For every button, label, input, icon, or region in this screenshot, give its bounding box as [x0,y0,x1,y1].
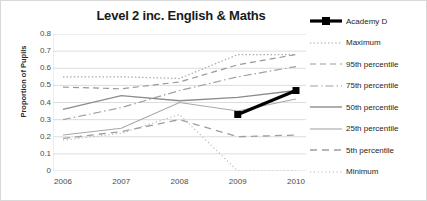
y-axis-tick-label: 0.8 [23,30,51,38]
plot-area [53,34,306,171]
chart-legend: Academy DMaximum95th percentile75th perc… [309,11,426,196]
x-axis-tick-label: 2009 [215,177,261,186]
y-axis-tick-label: 0.5 [23,81,51,89]
legend-item[interactable]: 50th percentile [309,97,426,117]
series-marker [293,87,300,94]
y-axis-tick-label: 0.6 [23,64,51,72]
legend-swatch-icon [309,122,343,136]
legend-label: Maximum [346,38,381,47]
y-axis-tick-labels: 00.10.20.30.40.50.60.70.8 [21,1,51,201]
legend-label: Minimum [346,167,378,176]
legend-swatch-icon [309,14,343,28]
chart-plot-svg [53,34,306,171]
x-axis-tick-label: 2008 [157,177,203,186]
y-axis-tick-label: 0.1 [23,150,51,158]
legend-label: 5th percentile [346,146,394,155]
legend-label: 95th percentile [346,60,398,69]
series-line [63,67,296,120]
legend-swatch-icon [309,79,343,93]
series-line [63,55,296,89]
legend-swatch-icon [309,100,343,114]
legend-label: 25th percentile [346,124,398,133]
legend-swatch-icon [309,36,343,50]
y-axis-tick-label: 0.2 [23,133,51,141]
legend-item[interactable]: Minimum [309,162,426,182]
legend-label: Academy D [346,17,387,26]
legend-label: 75th percentile [346,81,398,90]
y-axis-tick-label: 0.7 [23,47,51,55]
series-line [63,114,296,171]
chart-title: Level 2 inc. English & Maths [56,8,306,23]
legend-item[interactable]: Academy D [309,11,426,31]
legend-swatch-icon [309,57,343,71]
legend-item[interactable]: 25th percentile [309,119,426,139]
series-marker [234,111,241,118]
y-axis-tick-label: 0.4 [23,99,51,107]
chart-container: Level 2 inc. English & Maths Proportion … [0,0,427,201]
legend-item[interactable]: Maximum [309,33,426,53]
y-axis-tick-label: 0 [23,167,51,175]
legend-swatch-icon [309,165,343,179]
x-axis-tick-label: 2006 [40,177,86,186]
legend-swatch-icon [309,143,343,157]
legend-item[interactable]: 5th percentile [309,140,426,160]
legend-label: 50th percentile [346,103,398,112]
legend-item[interactable]: 95th percentile [309,54,426,74]
legend-item[interactable]: 75th percentile [309,76,426,96]
x-axis-tick-label: 2007 [98,177,144,186]
series-line [63,55,296,79]
y-axis-tick-label: 0.3 [23,116,51,124]
